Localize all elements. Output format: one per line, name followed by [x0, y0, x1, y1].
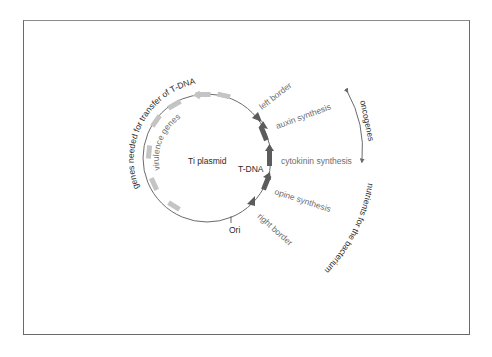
ti-plasmid-diagram: Ti plasmid T-DNA Ori genes needed for tr… — [0, 0, 492, 357]
center-label: Ti plasmid — [188, 156, 227, 166]
left-border-label: left border — [257, 80, 293, 112]
cytokinin-synthesis-label: cytokinin synthesis — [281, 156, 352, 166]
oncogenes-label: oncogenes — [358, 99, 376, 142]
t-dna-gene-arrows — [247, 112, 274, 206]
ori-label: Ori — [229, 225, 240, 235]
right-border-label: right border — [256, 211, 295, 248]
opine-synthesis-label: opine synthesis — [273, 186, 332, 214]
nutrients-label: nutrients for the bacterium — [323, 183, 376, 276]
t-dna-label: T-DNA — [238, 164, 264, 174]
auxin-synthesis-label: auxin synthesis — [274, 102, 332, 131]
